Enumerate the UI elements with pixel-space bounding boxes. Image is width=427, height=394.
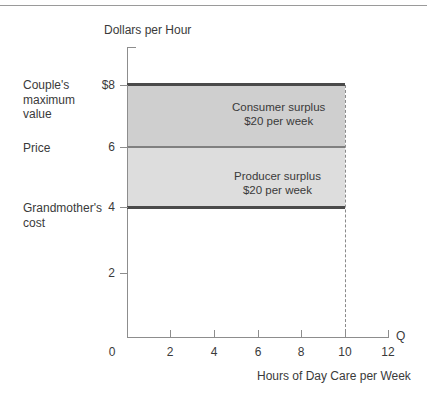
x-tick-label-12: 12	[381, 345, 394, 359]
surplus-chart-figure: Dollars per Hour Q $8 6 4 2 0 2 4 6 8 10…	[0, 0, 427, 394]
x-tick-label-0: 0	[109, 345, 116, 359]
grandmothers-cost-label: Grandmother's cost	[23, 201, 113, 230]
x-tick-4	[214, 330, 215, 338]
x-tick-6	[258, 330, 259, 338]
x-tick-2	[170, 330, 171, 338]
grandmothers-cost-line	[127, 206, 345, 209]
couples-maximum-value-label: Couple's maximum value	[23, 78, 113, 122]
x-axis-title: Hours of Day Care per Week	[257, 369, 411, 383]
y-axis-top-cap	[127, 47, 136, 48]
grandmothers-cost-label-line2: cost	[23, 216, 113, 231]
couples-maximum-value-label-line3: value	[23, 107, 113, 122]
y-tick-8	[120, 85, 128, 86]
consumer-surplus-annotation: Consumer surplus $20 per week	[232, 100, 325, 128]
price-line	[127, 146, 345, 148]
x-tick-label-10: 10	[338, 345, 351, 359]
x-tick-8	[301, 330, 302, 338]
couples-maximum-value-label-line1: Couple's	[23, 78, 113, 93]
x-tick-label-8: 8	[298, 345, 305, 359]
y-tick-label-2: 2	[78, 266, 115, 280]
price-label: Price	[23, 141, 113, 156]
producer-surplus-annotation: Producer surplus $20 per week	[234, 169, 321, 197]
x-axis-symbol: Q	[396, 329, 405, 343]
x-tick-10	[345, 330, 346, 338]
y-tick-6	[120, 147, 128, 148]
x-tick-label-2: 2	[167, 345, 174, 359]
couples-maximum-value-label-line2: maximum	[23, 93, 113, 108]
y-tick-2	[120, 273, 128, 274]
y-tick-4	[120, 207, 128, 208]
grandmothers-cost-label-line1: Grandmother's	[23, 201, 113, 216]
x-tick-label-6: 6	[255, 345, 262, 359]
x-tick-label-4: 4	[211, 345, 218, 359]
consumer-surplus-amount: $20 per week	[232, 114, 325, 128]
y-axis-title: Dollars per Hour	[104, 23, 191, 37]
x-axis-end-cap	[388, 330, 389, 338]
consumer-surplus-title: Consumer surplus	[232, 100, 325, 114]
producer-surplus-title: Producer surplus	[234, 169, 321, 183]
couples-maximum-value-line	[127, 83, 345, 86]
top-divider	[0, 5, 427, 6]
x-tick-0	[127, 330, 128, 338]
quantity-dashed-line	[345, 85, 346, 337]
producer-surplus-amount: $20 per week	[234, 183, 321, 197]
